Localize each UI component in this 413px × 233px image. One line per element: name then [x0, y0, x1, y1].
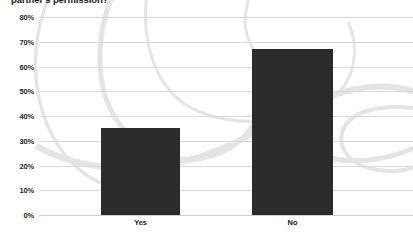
- gridline-70: [39, 42, 413, 43]
- y-axis-label-70: 70%: [0, 38, 34, 47]
- axis-baseline: [39, 215, 413, 216]
- gridline-80: [39, 17, 413, 18]
- y-axis-label-10: 10%: [0, 186, 34, 195]
- gridline-10: [39, 190, 413, 191]
- y-axis-label-0: 0%: [0, 211, 34, 220]
- gridline-60: [39, 67, 413, 68]
- y-axis-label-80: 80%: [0, 13, 34, 22]
- y-axis-label-50: 50%: [0, 87, 34, 96]
- plot-area: 80% 70% 60% 50% 40% 30% 20% 10% 0% Yes N…: [0, 0, 413, 233]
- x-axis-label-no: No: [252, 218, 333, 227]
- gridline-40: [39, 116, 413, 117]
- gridline-20: [39, 166, 413, 167]
- y-axis-label-40: 40%: [0, 112, 34, 121]
- y-axis-label-30: 30%: [0, 137, 34, 146]
- y-axis-label-60: 60%: [0, 63, 34, 72]
- gridline-30: [39, 141, 413, 142]
- bar-yes[interactable]: [101, 128, 180, 215]
- y-axis-label-20: 20%: [0, 162, 34, 171]
- bar-chart: partner's permission? 80% 70% 60% 50% 40…: [0, 0, 413, 233]
- gridline-50: [39, 91, 413, 92]
- x-axis-label-yes: Yes: [101, 218, 180, 227]
- chart-title: partner's permission?: [11, 0, 108, 5]
- bar-no[interactable]: [252, 49, 333, 215]
